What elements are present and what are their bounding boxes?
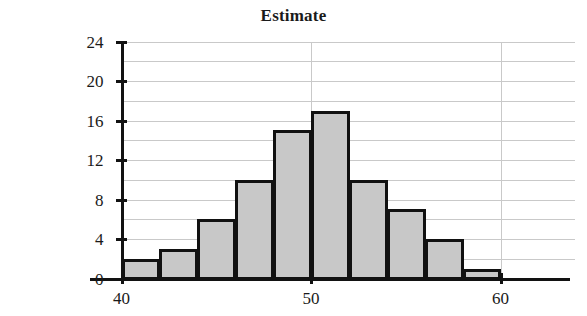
gridline-horizontal — [122, 81, 576, 82]
x-axis-tick-label: 40 — [92, 290, 152, 307]
x-axis-tick — [500, 273, 503, 284]
x-axis-tick — [121, 273, 124, 284]
y-axis-tick — [116, 238, 127, 241]
y-axis-tick-label: 20 — [0, 73, 104, 90]
y-axis-tick — [116, 120, 127, 123]
plot-area: 04812162024 405060 — [0, 0, 587, 316]
y-axis-tick-label: 16 — [0, 113, 104, 130]
histogram-bar — [235, 180, 274, 280]
gridline-horizontal — [122, 42, 576, 43]
y-axis-tick — [116, 41, 127, 44]
gridline-horizontal — [122, 101, 576, 102]
histogram-bar — [122, 259, 161, 280]
histogram-bar — [311, 111, 350, 280]
gridline-horizontal — [122, 61, 576, 62]
x-axis-tick-label: 50 — [281, 290, 341, 307]
gridline-vertical — [501, 42, 502, 279]
y-axis-tick-label: 24 — [0, 34, 104, 51]
y-axis-tick-label: 12 — [0, 152, 104, 169]
y-axis-tick — [116, 80, 127, 83]
histogram-bar — [197, 219, 236, 279]
histogram-bar — [425, 239, 464, 280]
x-axis-tick — [310, 273, 313, 284]
histogram-bar — [159, 249, 198, 280]
histogram-bar — [387, 209, 426, 279]
histogram-figure: Estimate 04812162024 405060 — [0, 0, 587, 316]
y-axis-tick-label: 4 — [0, 231, 104, 248]
histogram-bar — [349, 180, 388, 280]
x-axis-line — [90, 278, 571, 281]
y-axis-tick-label: 0 — [0, 271, 104, 288]
histogram-bar — [273, 130, 312, 279]
y-axis-tick — [116, 199, 127, 202]
y-axis-tick — [116, 159, 127, 162]
x-axis-tick-label: 60 — [471, 290, 531, 307]
y-axis-tick-label: 8 — [0, 192, 104, 209]
